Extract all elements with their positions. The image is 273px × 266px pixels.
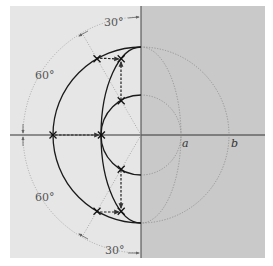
- right-panel-background: [141, 6, 265, 258]
- semi-axis-b-label: b: [231, 137, 238, 150]
- angle-label-top: 30°: [104, 16, 124, 29]
- semi-axis-a-label: a: [182, 137, 189, 150]
- angle-label-upper-left: 60°: [35, 69, 55, 82]
- ellipse-construction-diagram: 30° 60° 60° 30° a b: [0, 0, 273, 266]
- angle-label-bottom: 30°: [105, 244, 125, 257]
- angle-label-lower-left: 60°: [35, 191, 55, 204]
